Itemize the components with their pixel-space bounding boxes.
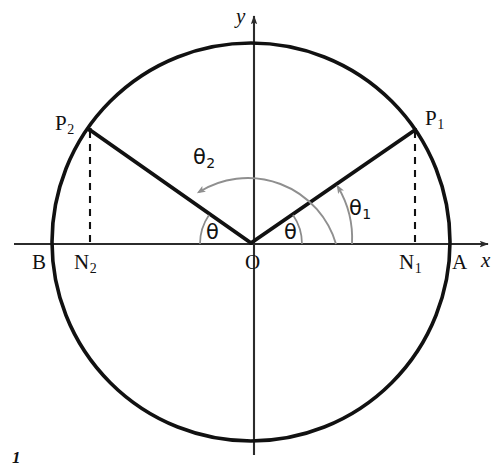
y-axis-label: y	[236, 6, 245, 27]
figure-number: 1	[12, 449, 21, 466]
x-axis-label: x	[481, 250, 490, 271]
angle-label-theta-left: θ	[206, 222, 219, 243]
point-label-p1-subscript: 1	[437, 117, 445, 132]
angle-label-theta-right: θ	[284, 222, 297, 243]
angle-arc-theta-2	[199, 178, 336, 244]
point-label-n2-subscript: 2	[89, 261, 97, 276]
angle-label-theta-2: θ2	[193, 147, 215, 170]
point-label-n1-base: N	[399, 250, 414, 274]
point-label-b: B	[32, 252, 46, 273]
point-label-a: A	[452, 252, 467, 273]
angle-label-theta-2-subscript: 2	[206, 155, 215, 171]
origin-label: O	[245, 252, 260, 273]
point-label-n2-base: N	[74, 250, 89, 274]
point-marker-p2	[88, 128, 92, 132]
angle-label-theta-2-base: θ	[193, 145, 206, 169]
point-label-n2: N2	[74, 252, 97, 276]
point-label-p2-subscript: 2	[67, 122, 75, 137]
radius-op1	[251, 130, 415, 243]
point-label-p1: P1	[425, 108, 444, 132]
point-label-p1-base: P	[425, 106, 437, 130]
angle-label-theta-1: θ1	[349, 198, 371, 221]
point-label-n1-subscript: 1	[414, 261, 422, 276]
point-label-n1: N1	[399, 252, 422, 276]
point-marker-p1	[413, 128, 417, 132]
point-label-p2-base: P	[55, 111, 67, 135]
angle-label-theta-1-base: θ	[349, 196, 362, 220]
angle-label-theta-1-subscript: 1	[362, 206, 371, 222]
point-label-p2: P2	[55, 113, 74, 137]
radius-op2	[90, 130, 251, 243]
